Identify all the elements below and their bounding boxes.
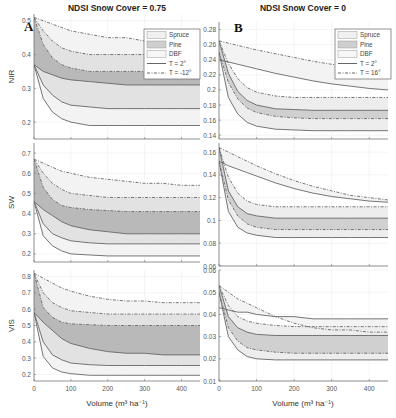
y-tick-label: 0.1: [207, 217, 216, 224]
x-axis-label-right: Volume (m³ ha⁻¹): [272, 399, 334, 408]
legend-swatch: [147, 41, 166, 48]
y-tick-label: 0.01: [203, 378, 216, 385]
y-tick-label: 0.2: [22, 119, 31, 126]
legend-label: T = 16°: [360, 69, 381, 76]
y-tick-label: 0.24: [203, 56, 216, 63]
y-tick-label: 0.16: [203, 149, 216, 156]
y-tick-label: 0.3: [22, 230, 31, 237]
y-tick-label: 0.04: [203, 311, 216, 318]
x-tick-label: 0: [32, 385, 36, 392]
legend-label: Spruce: [360, 31, 380, 39]
x-axis-label-left: Volume (m³ ha⁻¹): [86, 399, 148, 408]
column-title-left: NDSI Snow Cover = 0.75: [68, 3, 166, 13]
y-tick-label: 0.2: [22, 371, 31, 378]
legend-label: T = 2°: [360, 60, 377, 67]
y-axis-label: VIS: [7, 319, 16, 332]
x-tick-label: 200: [102, 385, 113, 392]
chart-svg: NDSI Snow Cover = 0.75 NDSI Snow Cover =…: [0, 0, 396, 418]
legend-label: Pine: [360, 41, 373, 48]
y-tick-label: 0.18: [203, 102, 216, 109]
y-tick-label: 0.2: [22, 250, 31, 257]
legend-swatch: [147, 32, 166, 39]
panel-vis-left: 0.20.30.40.50.60.70.80100200300400VIS: [7, 270, 200, 392]
legend-label: T = -12°: [169, 69, 192, 76]
y-tick-label: 0.7: [22, 150, 31, 157]
legend-label: DBF: [169, 50, 182, 57]
legend-left: SprucePineDBFT = 2°T = -12°: [144, 29, 200, 79]
y-axis-label: NIR: [7, 69, 16, 83]
y-tick-label: 0.28: [203, 26, 216, 33]
y-tick-label: 0.14: [203, 171, 216, 178]
y-tick-label: 0.16: [203, 117, 216, 124]
legend-label: T = 2°: [169, 60, 186, 67]
x-tick-label: 100: [251, 385, 262, 392]
y-tick-label: 0.06: [203, 267, 216, 274]
y-tick-label: 0.3: [22, 85, 31, 92]
y-tick-label: 0.4: [22, 51, 31, 58]
x-tick-label: 0: [217, 385, 221, 392]
y-tick-label: 0.02: [203, 355, 216, 362]
x-tick-label: 300: [139, 385, 150, 392]
y-tick-label: 0.5: [22, 190, 31, 197]
legend-swatch: [338, 32, 357, 39]
y-tick-label: 0.14: [203, 132, 216, 139]
y-tick-label: 0.6: [22, 306, 31, 313]
legend-swatch: [147, 51, 166, 58]
y-tick-label: 0.26: [203, 41, 216, 48]
y-tick-label: 0.4: [22, 210, 31, 217]
x-tick-label: 400: [176, 385, 187, 392]
panel-letter-b: B: [234, 20, 243, 35]
y-tick-label: 0.2: [207, 86, 216, 93]
legend-label: Spruce: [169, 31, 189, 39]
panel-vis-right: 0.010.020.030.040.050.060100200300400: [203, 267, 388, 393]
y-tick-label: 0.22: [203, 71, 216, 78]
legend-label: DBF: [360, 50, 373, 57]
x-tick-label: 200: [289, 385, 300, 392]
x-tick-label: 100: [65, 385, 76, 392]
y-tick-label: 0.12: [203, 194, 216, 201]
legend-swatch: [338, 41, 357, 48]
legend-right: SprucePineDBFT = 2°T = 16°: [335, 29, 391, 79]
panel-letter-a: A: [24, 19, 34, 34]
y-tick-label: 0.03: [203, 333, 216, 340]
y-tick-label: 0.7: [22, 289, 31, 296]
figure: NDSI Snow Cover = 0.75 NDSI Snow Cover =…: [0, 0, 396, 418]
legend-swatch: [338, 51, 357, 58]
panel-sw-right: 0.060.080.10.120.140.16: [203, 143, 388, 270]
y-tick-label: 0.6: [22, 170, 31, 177]
y-tick-label: 0.05: [203, 289, 216, 296]
y-tick-label: 0.08: [203, 240, 216, 247]
x-tick-label: 400: [364, 385, 375, 392]
series-line: [219, 148, 388, 200]
panel-sw-left: 0.20.30.40.50.60.7SW: [7, 143, 200, 262]
y-tick-label: 0.5: [22, 322, 31, 329]
y-tick-label: 0.3: [22, 355, 31, 362]
y-tick-label: 0.8: [22, 273, 31, 280]
x-tick-label: 300: [326, 385, 337, 392]
column-title-right: NDSI Snow Cover = 0: [260, 3, 346, 13]
legend-label: Pine: [169, 41, 182, 48]
y-axis-label: SW: [7, 196, 16, 209]
y-tick-label: 0.4: [22, 338, 31, 345]
